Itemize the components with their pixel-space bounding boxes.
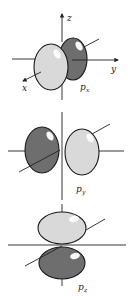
pz-orbital-panel: p z <box>8 204 126 293</box>
diagonal-axis-back <box>86 219 105 230</box>
diagonal-axis-back <box>92 124 110 134</box>
pz-label-subscript: z <box>83 286 88 293</box>
px-light-lobe <box>34 44 68 90</box>
py-label-subscript: y <box>81 188 86 196</box>
x-axis-label: x <box>22 83 27 93</box>
px-label-subscript: x <box>86 86 90 93</box>
py-light-lobe <box>65 129 99 175</box>
y-axis-label: y <box>110 64 117 74</box>
pz-light-lobe <box>38 212 86 244</box>
py-orbital-panel: p y <box>8 112 124 200</box>
x-axis-back <box>84 39 99 47</box>
pz-dark-lobe <box>39 247 85 279</box>
p-orbitals-diagram: z y x p x p y <box>0 0 130 296</box>
px-orbital-panel: z y x p x <box>12 13 118 100</box>
z-axis-label: z <box>66 13 72 23</box>
